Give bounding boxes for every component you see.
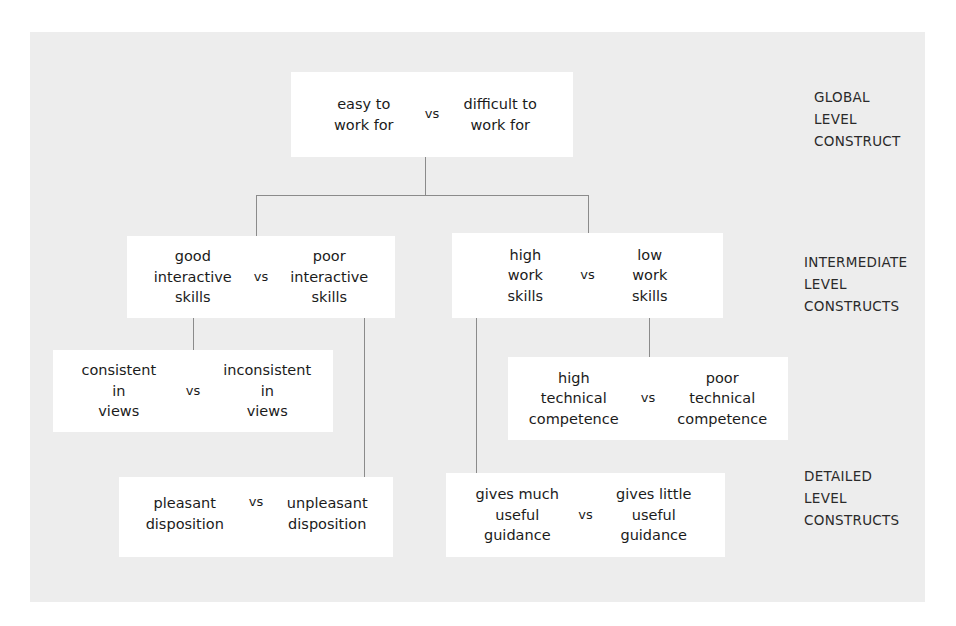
connector-to-work-skills	[588, 195, 589, 233]
level-label-intermediate: INTERMEDIATE LEVEL CONSTRUCTS	[804, 252, 907, 318]
construct-vs-label: vs	[245, 268, 277, 286]
construct-vs-label: vs	[177, 382, 209, 400]
construct-right-pole: inconsistent in views	[209, 360, 325, 422]
construct-left-pole: pleasant disposition	[130, 493, 240, 534]
construct-box-guidance[interactable]: gives much useful guidance vs gives litt…	[446, 473, 725, 557]
construct-right-pole: difficult to work for	[448, 94, 552, 135]
construct-vs-label: vs	[569, 506, 601, 524]
construct-box-global[interactable]: easy to work for vs difficult to work fo…	[291, 72, 573, 157]
connector-interactive-to-disposition	[364, 318, 365, 477]
construct-box-work-skills[interactable]: high work skills vs low work skills	[452, 233, 723, 318]
construct-right-pole: poor interactive skills	[277, 246, 381, 308]
connector-global-trunk	[425, 157, 426, 196]
construct-left-pole: good interactive skills	[141, 246, 245, 308]
connector-interactive-to-views	[193, 318, 194, 350]
construct-left-pole: high work skills	[479, 245, 571, 307]
construct-right-pole: gives little useful guidance	[602, 484, 706, 546]
connector-workskills-to-guidance	[476, 318, 477, 473]
level-label-global: GLOBAL LEVEL CONSTRUCT	[814, 87, 901, 153]
level-label-detailed: DETAILED LEVEL CONSTRUCTS	[804, 466, 899, 532]
construct-left-pole: high technical competence	[516, 368, 632, 430]
connector-intermediate-bus	[256, 195, 589, 196]
diagram-canvas: easy to work for vs difficult to work fo…	[0, 0, 956, 626]
construct-vs-label: vs	[632, 389, 664, 407]
construct-right-pole: poor technical competence	[664, 368, 780, 430]
construct-left-pole: easy to work for	[312, 94, 416, 135]
construct-left-pole: gives much useful guidance	[465, 484, 569, 546]
construct-vs-label: vs	[416, 105, 448, 123]
construct-box-interactive-skills[interactable]: good interactive skills vs poor interact…	[127, 236, 395, 318]
construct-vs-label: vs	[240, 493, 272, 511]
construct-box-technical-competence[interactable]: high technical competence vs poor techni…	[508, 357, 788, 440]
construct-box-disposition[interactable]: pleasant disposition vs unpleasant dispo…	[119, 477, 393, 557]
construct-vs-label: vs	[571, 266, 603, 284]
connector-to-interactive-skills	[256, 195, 257, 236]
construct-left-pole: consistent in views	[61, 360, 177, 422]
construct-box-views[interactable]: consistent in views vs inconsistent in v…	[53, 350, 333, 432]
connector-workskills-to-technical	[649, 318, 650, 357]
construct-right-pole: low work skills	[604, 245, 696, 307]
construct-right-pole: unpleasant disposition	[272, 493, 382, 534]
